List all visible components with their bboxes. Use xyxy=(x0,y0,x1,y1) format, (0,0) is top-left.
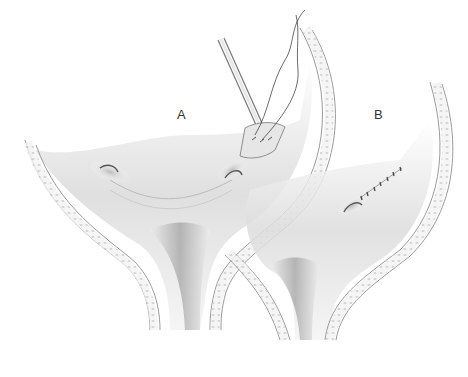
surgical-illustration: A B xyxy=(0,0,468,377)
panel-label-a: A xyxy=(177,107,186,122)
illustration-drawing xyxy=(0,0,468,377)
panel-label-b: B xyxy=(374,107,383,122)
needle-holder xyxy=(218,38,262,125)
panel-b xyxy=(225,82,453,340)
